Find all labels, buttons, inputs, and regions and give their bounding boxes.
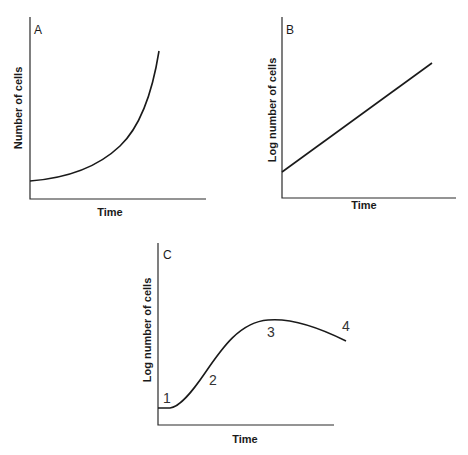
phase-4-label: 4 <box>342 318 350 334</box>
panel-a: A Time Number of cells <box>12 17 206 218</box>
phase-2-label: 2 <box>209 372 217 388</box>
panel-c: C Time Log number of cells 1 2 3 4 <box>141 243 350 445</box>
panel-b-linear-line <box>282 63 432 172</box>
panel-a-xlabel: Time <box>97 206 122 218</box>
panel-c-xlabel: Time <box>232 433 257 445</box>
panel-b-xlabel: Time <box>351 199 376 211</box>
panel-a-ylabel: Number of cells <box>12 67 24 150</box>
panel-b-ylabel: Log number of cells <box>266 58 278 163</box>
phase-3-label: 3 <box>267 324 275 340</box>
panel-c-ylabel: Log number of cells <box>141 278 153 383</box>
growth-curves-figure: A Time Number of cells B Time Log number… <box>0 0 468 455</box>
panel-a-letter: A <box>34 23 42 37</box>
panel-a-exponential-curve <box>30 51 159 181</box>
panel-c-letter: C <box>163 248 172 262</box>
panel-b-letter: B <box>286 23 294 37</box>
panel-a-axes <box>30 17 206 199</box>
panel-c-axes <box>158 243 334 425</box>
phase-1-label: 1 <box>163 390 171 406</box>
panel-b: B Time Log number of cells <box>266 17 456 211</box>
panel-c-growth-curve <box>158 320 346 408</box>
panel-b-axes <box>282 17 456 198</box>
